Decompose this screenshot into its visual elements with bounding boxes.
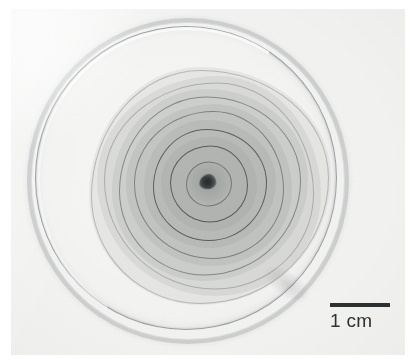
scale-bar-label: 1 cm — [330, 311, 394, 331]
figure-root: 1 cm — [0, 0, 411, 362]
scale-bar-group: 1 cm — [330, 303, 394, 331]
scale-bar-line — [330, 303, 390, 307]
